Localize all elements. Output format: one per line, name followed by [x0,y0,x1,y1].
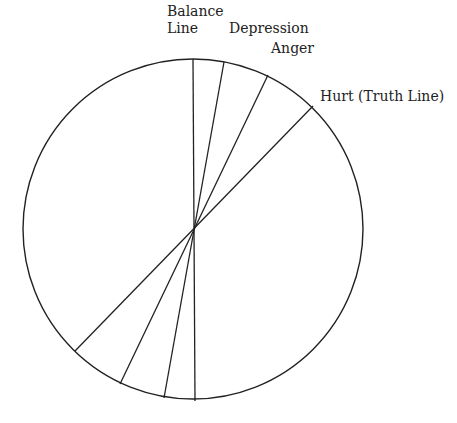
label-hurt-truth-line: Hurt (Truth Line) [320,88,444,105]
label-balance-line-1: Balance [167,3,224,20]
pie-diagram [0,0,457,423]
label-balance-line-2: Line [167,20,198,37]
label-anger: Anger [271,40,314,57]
label-depression: Depression [229,20,309,37]
